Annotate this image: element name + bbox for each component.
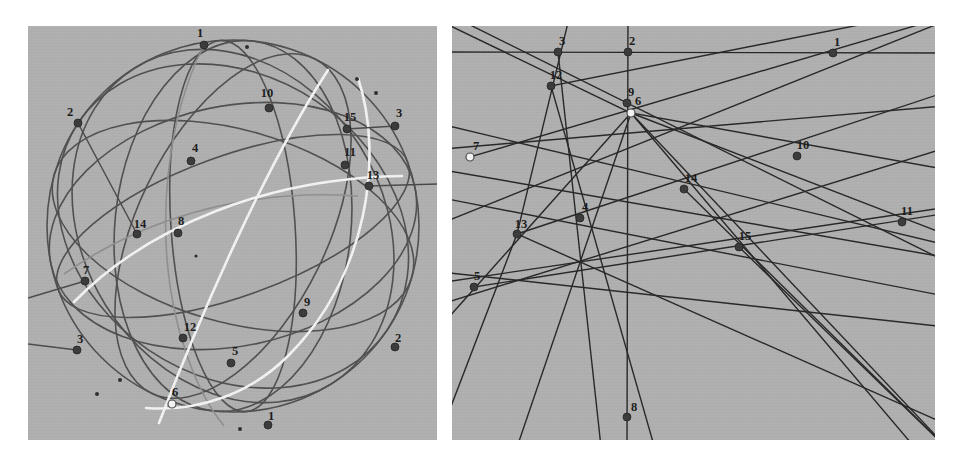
left-label-2: 2 (395, 331, 401, 345)
left-label-6: 6 (172, 385, 178, 399)
right-point-7[interactable] (466, 153, 474, 161)
right-label-15: 15 (739, 229, 752, 243)
rim-tick-2 (355, 77, 359, 81)
right-point-15[interactable] (735, 243, 743, 251)
right-label-7: 7 (473, 139, 479, 153)
left-label-14: 14 (134, 217, 147, 231)
right-label-12: 12 (550, 68, 563, 82)
left-point-8[interactable] (174, 229, 182, 237)
left-label-5: 5 (232, 344, 238, 358)
left-point-5[interactable] (227, 359, 235, 367)
left-point-14[interactable] (133, 230, 141, 238)
right-label-10: 10 (797, 138, 810, 152)
right-label-3: 3 (559, 34, 565, 48)
right-point-5[interactable] (470, 283, 478, 291)
rim-tick-7 (194, 254, 197, 257)
right-point-8[interactable] (623, 413, 631, 421)
right-point-1[interactable] (829, 49, 837, 57)
right-point-13[interactable] (513, 230, 521, 238)
left-point-4[interactable] (187, 157, 195, 165)
left-point-2[interactable] (74, 119, 82, 127)
right-point-10[interactable] (793, 152, 801, 160)
left-label-9: 9 (304, 295, 310, 309)
left-point-6[interactable] (168, 400, 176, 408)
left-label-13: 13 (367, 168, 380, 182)
left-point-12[interactable] (179, 334, 187, 342)
left-label-4: 4 (192, 141, 199, 155)
left-point-7[interactable] (81, 277, 89, 285)
right-point-9[interactable] (623, 99, 631, 107)
right-label-2: 2 (629, 34, 635, 48)
left-label-3: 3 (396, 106, 402, 120)
left-point-11[interactable] (341, 161, 349, 169)
rim-tick-3 (374, 91, 378, 95)
left-point-15[interactable] (343, 125, 351, 133)
left-label-10: 10 (261, 86, 274, 100)
right-point-3[interactable] (554, 48, 562, 56)
rim-tick-6 (238, 427, 242, 431)
right-label-6: 6 (635, 94, 641, 108)
right-point-12[interactable] (547, 82, 555, 90)
rim-tick-4 (118, 378, 122, 382)
right-label-8: 8 (631, 400, 637, 414)
left-point-9[interactable] (299, 309, 307, 317)
right-label-5: 5 (474, 269, 480, 283)
left-point-3[interactable] (73, 346, 81, 354)
left-label-8: 8 (178, 214, 184, 228)
left-point-10[interactable] (265, 104, 273, 112)
left-label-15: 15 (344, 110, 357, 124)
left-panel-background (28, 26, 437, 440)
left-sphere-svg: 121015341113148793212561 (28, 26, 437, 440)
left-point-1[interactable] (200, 41, 208, 49)
right-label-9: 9 (628, 85, 634, 99)
left-label-3: 3 (77, 332, 83, 346)
right-point-6[interactable] (627, 109, 635, 117)
rim-tick-5 (95, 392, 99, 396)
left-label-11: 11 (344, 145, 356, 159)
right-label-1: 1 (834, 35, 840, 49)
left-point-13[interactable] (365, 182, 373, 190)
right-point-14[interactable] (680, 185, 688, 193)
right-label-13: 13 (515, 217, 528, 231)
left-point-3[interactable] (391, 122, 399, 130)
left-label-2: 2 (67, 105, 73, 119)
left-label-12: 12 (184, 320, 197, 334)
right-line-panel: 321129671014413111558 (452, 26, 935, 440)
right-line-svg: 321129671014413111558 (452, 26, 935, 440)
left-sphere-panel: 121015341113148793212561 (28, 26, 437, 440)
right-label-4: 4 (582, 200, 589, 214)
right-label-11: 11 (901, 204, 913, 218)
figure-root: 121015341113148793212561 (0, 0, 963, 465)
left-label-7: 7 (83, 263, 89, 277)
right-point-4[interactable] (576, 214, 584, 222)
right-point-2[interactable] (624, 48, 632, 56)
right-label-14: 14 (685, 171, 698, 185)
rim-tick-1 (245, 45, 249, 49)
right-point-11[interactable] (898, 218, 906, 226)
left-label-1: 1 (268, 409, 274, 423)
left-label-1: 1 (197, 26, 203, 40)
